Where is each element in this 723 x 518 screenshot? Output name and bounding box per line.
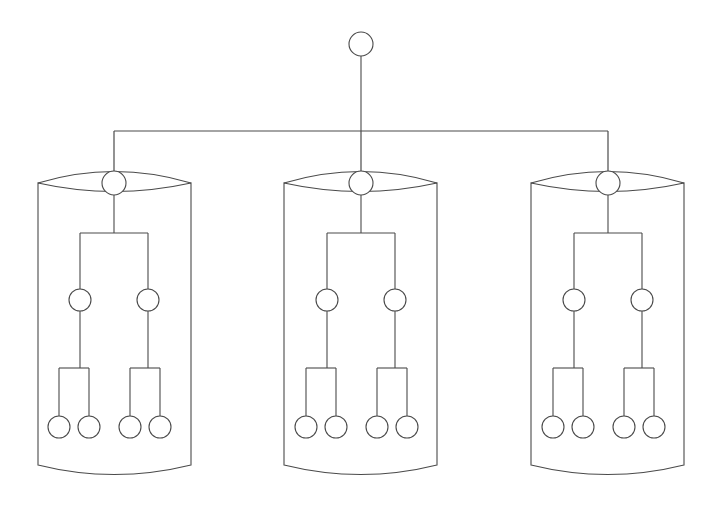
tree-leaf-node-2[interactable] (325, 416, 347, 438)
tree-leaf-node-4[interactable] (396, 416, 418, 438)
tree-leaf-node-3[interactable] (613, 416, 635, 438)
tree-leaf-node-1[interactable] (542, 416, 564, 438)
tree-leaf-node-1[interactable] (48, 416, 70, 438)
tree-mid-node-1[interactable] (316, 289, 338, 311)
diagram-svg (0, 0, 723, 518)
tree-leaf-node-3[interactable] (366, 416, 388, 438)
tree-root-node[interactable] (596, 171, 620, 195)
tree-leaf-node-3[interactable] (119, 416, 141, 438)
tree-root-node[interactable] (349, 171, 373, 195)
tree-leaf-node-2[interactable] (78, 416, 100, 438)
tree-leaf-node-4[interactable] (149, 416, 171, 438)
tree-mid-node-2[interactable] (137, 289, 159, 311)
tree-mid-node-1[interactable] (563, 289, 585, 311)
root-node-layer (349, 32, 373, 131)
root-node[interactable] (349, 32, 373, 56)
tree-leaf-node-4[interactable] (643, 416, 665, 438)
tree-leaf-node-2[interactable] (572, 416, 594, 438)
tree-mid-node-2[interactable] (631, 289, 653, 311)
tree-leaf-node-1[interactable] (295, 416, 317, 438)
tree-mid-node-1[interactable] (69, 289, 91, 311)
tree-mid-node-2[interactable] (384, 289, 406, 311)
diagram-canvas: Distributed binary tree replicated acros… (0, 0, 723, 518)
tree-root-node[interactable] (102, 171, 126, 195)
